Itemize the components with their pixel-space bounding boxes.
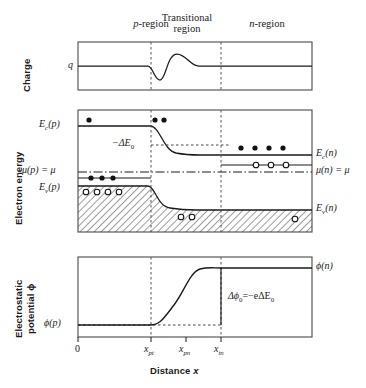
potential-axis-label-line2: potential ϕ [26, 284, 36, 334]
xtick-x-pt: xpt [144, 344, 154, 356]
label-phi-n: ϕ(n) [316, 261, 333, 272]
label-delta-e0: −ΔE0 [112, 138, 134, 150]
xtick-x-tn: xtn [214, 344, 224, 356]
label-Ev-n: Ev(n) [316, 203, 337, 215]
region-header-n: n-region [208, 18, 326, 29]
xtick-x-pn: xpn [179, 344, 190, 356]
xtick-origin: 0 [75, 344, 80, 355]
label-Ev-p: Ev(p) [39, 182, 60, 194]
charge-axis-label: Charge [22, 59, 32, 92]
x-axis-ticks [78, 337, 221, 342]
label-mu-p: μ(p) = μ [22, 165, 55, 176]
energy-axis-label: Electron energy [14, 152, 24, 225]
potential-axis-label-line1: Electrostatic [14, 280, 24, 338]
potential-panel [78, 257, 312, 342]
label-Ec-p: Ec(p) [39, 119, 60, 131]
label-mu-n: μ(n) = μ [316, 165, 349, 176]
label-delta-phi0: Δϕ0=−eΔE0 [228, 291, 274, 303]
charge-q-label: q [68, 60, 73, 71]
x-axis-title: Distance x [150, 366, 199, 376]
label-Ec-n: Ec(n) [316, 148, 337, 160]
label-phi-p: ϕ(p) [44, 318, 61, 329]
charge-panel [78, 42, 312, 90]
energy-panel [78, 110, 312, 232]
